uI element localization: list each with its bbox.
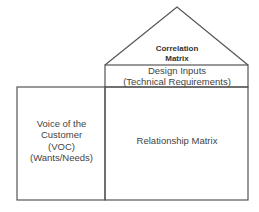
house-of-quality-frame [0,0,259,212]
relationship-matrix-label: Relationship Matrix [106,136,248,147]
relationship-matrix-text: Relationship Matrix [106,136,248,147]
voc-label: Voice of the Customer (VOC) (Wants/Needs… [18,118,105,164]
design-inputs-line2: (Technical Requirements) [106,77,248,88]
voc-line3: (VOC) [18,141,105,152]
correlation-matrix-label: Correlation Matrix [120,44,234,63]
voc-line2: Customer [18,129,105,140]
correlation-label-line1: Correlation [120,44,234,54]
voc-line4: (Wants/Needs) [18,152,105,163]
correlation-label-line2: Matrix [120,54,234,64]
voc-line1: Voice of the [18,118,105,129]
design-inputs-label: Design Inputs (Technical Requirements) [106,66,248,88]
